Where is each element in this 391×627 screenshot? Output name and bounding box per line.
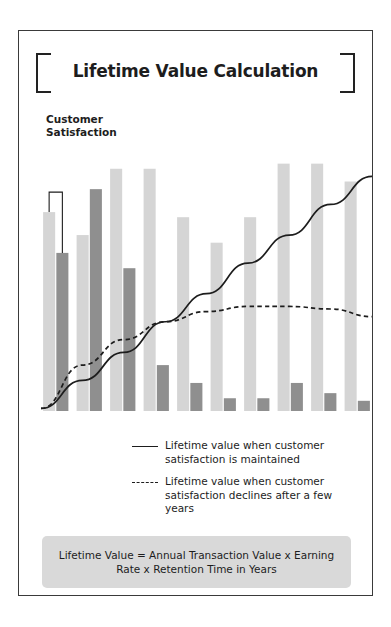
chart-legend: Lifetime value when customer satisfactio…	[132, 439, 357, 525]
solid-line-icon	[132, 446, 158, 447]
bar-dark	[324, 393, 336, 411]
y-axis-label: Customer Satisfaction	[46, 113, 117, 139]
legend-item-declines: Lifetime value when customer satisfactio…	[132, 475, 357, 516]
chart-svg	[39, 156, 374, 411]
formula-box: Lifetime Value = Annual Transaction Valu…	[42, 536, 351, 588]
bars-layer	[43, 164, 370, 411]
infographic-frame: Lifetime Value Calculation Customer Sati…	[18, 30, 373, 596]
chart-plot-area	[39, 156, 374, 411]
bar-light	[311, 164, 323, 411]
bar-dark	[157, 365, 169, 411]
bar-light	[345, 182, 357, 412]
bar-dark	[190, 383, 202, 411]
bar-light	[110, 169, 122, 411]
bar-dark	[358, 401, 370, 411]
legend-label-declines: Lifetime value when customer satisfactio…	[165, 475, 357, 516]
bar-light	[177, 217, 189, 411]
page-title: Lifetime Value Calculation	[19, 45, 372, 97]
bar-light	[144, 169, 156, 411]
bar-dark	[291, 383, 303, 411]
title-block: Lifetime Value Calculation	[19, 45, 372, 97]
bar-dark	[224, 398, 236, 411]
bar-light	[211, 243, 223, 411]
bar-light	[278, 164, 290, 411]
bar-light	[244, 217, 256, 411]
bar-dark	[257, 398, 269, 411]
bar-light	[43, 212, 55, 411]
bar-light	[77, 235, 89, 411]
dashed-line-icon	[132, 482, 158, 483]
legend-item-maintained: Lifetime value when customer satisfactio…	[132, 439, 357, 466]
legend-label-maintained: Lifetime value when customer satisfactio…	[165, 439, 357, 466]
